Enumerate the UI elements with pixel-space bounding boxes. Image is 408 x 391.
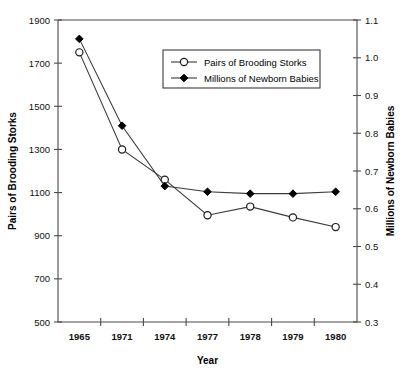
right-axis-tick-label: 0.5: [365, 241, 378, 252]
left-axis-tick-label: 500: [34, 317, 50, 328]
right-axis-tick-label: 0.4: [365, 279, 378, 290]
data-point-open-circle: [332, 223, 339, 230]
x-axis-category-label: 1974: [154, 331, 176, 342]
data-point-filled-diamond: [332, 188, 340, 196]
chart-canvas: 500700900110013001500170019000.30.40.50.…: [0, 0, 408, 391]
data-point-open-circle: [76, 49, 83, 56]
data-point-filled-diamond: [76, 35, 84, 43]
left-axis-tick-label: 900: [34, 230, 50, 241]
right-axis-tick-label: 0.8: [365, 128, 378, 139]
legend-group[interactable]: Pairs of Brooding StorksMillions of Newb…: [163, 50, 320, 88]
x-axis-category-label: 1980: [325, 331, 346, 342]
data-point-filled-diamond: [289, 190, 297, 198]
left-axis-tick-label: 700: [34, 273, 50, 284]
data-point-open-circle: [289, 214, 296, 221]
x-axis-category-label: 1979: [282, 331, 303, 342]
data-point-filled-diamond: [246, 190, 254, 198]
x-axis-category-label: 1977: [197, 331, 218, 342]
left-axis-tick-label: 1900: [29, 15, 50, 26]
right-axis-title: Millions of Newborn Babies: [385, 105, 396, 236]
x-axis-category-label: 1978: [240, 331, 261, 342]
left-axis-tick-label: 1300: [29, 144, 50, 155]
legend-label: Pairs of Brooding Storks: [204, 57, 307, 68]
data-point-open-circle: [118, 146, 125, 153]
right-axis-tick-label: 1.0: [365, 52, 378, 63]
left-axis-tick-label: 1100: [30, 187, 50, 198]
stork-birth-chart: 500700900110013001500170019000.30.40.50.…: [0, 0, 408, 391]
legend-label: Millions of Newborn Babies: [204, 73, 319, 84]
data-point-filled-diamond: [118, 122, 126, 130]
left-axis-tick-label: 1700: [29, 58, 50, 69]
data-point-filled-diamond: [204, 188, 212, 196]
data-point-open-circle: [204, 212, 211, 219]
x-axis-category-label: 1965: [69, 331, 91, 342]
right-axis-tick-label: 0.7: [365, 166, 378, 177]
right-axis-tick-label: 0.6: [365, 203, 378, 214]
right-axis-tick-label: 0.3: [365, 317, 378, 328]
right-axis-tick-label: 0.9: [365, 90, 378, 101]
right-axis-tick-label: 1.1: [365, 15, 378, 26]
x-axis-category-label: 1971: [112, 331, 134, 342]
data-point-open-circle: [180, 58, 187, 65]
left-axis-title: Pairs of Brooding Storks: [7, 112, 18, 230]
x-axis-title: Year: [197, 355, 218, 366]
left-axis-tick-label: 1500: [29, 101, 50, 112]
data-point-open-circle: [247, 203, 254, 210]
data-point-filled-diamond: [161, 182, 169, 190]
